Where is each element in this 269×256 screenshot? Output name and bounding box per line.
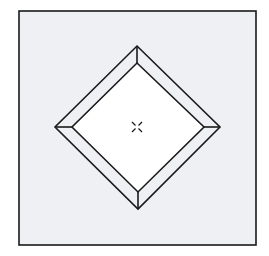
diagram-canvas — [0, 0, 269, 256]
